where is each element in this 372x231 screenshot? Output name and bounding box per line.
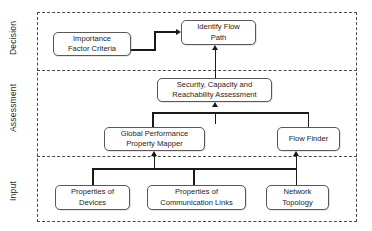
tier-label-input: Input — [0, 186, 35, 200]
node-identify-flow-path-line1: Identify Flow — [197, 22, 240, 31]
edge-input-devices-drop — [92, 168, 94, 185]
tier-label-assessment: Assessment — [0, 105, 35, 119]
node-network-topology-line2: Topology — [282, 198, 312, 207]
node-security-line1: Security, Capacity and — [177, 80, 252, 89]
tier-divider-assessment-input — [37, 156, 357, 157]
node-flow-finder-label: Flow Finder — [289, 134, 329, 143]
node-properties-of-devices-line1: Properties of — [71, 187, 114, 196]
node-network-topology[interactable]: Network Topology — [266, 185, 329, 210]
node-importance-factor-criteria-line2: Factor Criteria — [68, 44, 116, 53]
node-importance-factor-criteria[interactable]: Importance Factor Criteria — [53, 32, 131, 56]
edge-merge-assessment-stem — [215, 112, 217, 124]
node-properties-of-communication-links[interactable]: Properties of Communication Links — [147, 185, 246, 210]
tier-label-assessment-text: Assessment — [8, 88, 18, 132]
edge-security-to-identify-arrowhead — [212, 45, 218, 50]
edge-importance-to-identify-seg2 — [154, 31, 156, 50]
edge-merge-assessment-bar — [152, 112, 309, 114]
node-properties-of-communication-links-line2: Communication Links — [160, 198, 233, 207]
node-network-topology-line1: Network — [284, 187, 312, 196]
edge-importance-to-identify-seg3 — [154, 31, 176, 33]
node-global-performance-line2: Property Mapper — [126, 139, 183, 148]
node-global-performance-line1: Global Performance — [121, 129, 189, 138]
edge-merge-assessment-arrowhead — [212, 102, 218, 107]
edge-security-to-identify-line — [215, 50, 217, 78]
node-identify-flow-path-line2: Path — [211, 33, 227, 42]
node-global-performance-property-mapper[interactable]: Global Performance Property Mapper — [104, 127, 205, 151]
edge-topology-to-flowfinder-arrowhead — [293, 151, 299, 156]
tier-divider-decision-assessment — [37, 70, 357, 71]
tier-label-input-text: Input — [8, 169, 18, 213]
edge-input-commlinks-drop — [193, 168, 195, 185]
node-flow-finder[interactable]: Flow Finder — [277, 127, 340, 151]
edge-inputs-to-gppm-arrowhead — [151, 151, 157, 156]
node-properties-of-communication-links-line1: Properties of — [175, 187, 218, 196]
node-properties-of-devices[interactable]: Properties of Devices — [55, 185, 130, 210]
diagram-canvas: Decision Assessment Input Importance Fac… — [0, 0, 372, 231]
edge-merge-assessment-left-drop — [152, 112, 154, 128]
node-importance-factor-criteria-line1: Importance — [73, 34, 111, 43]
node-properties-of-devices-line2: Devices — [79, 198, 106, 207]
edge-importance-to-identify-seg1 — [131, 49, 156, 51]
edge-topology-to-flowfinder-line — [296, 156, 298, 185]
edge-merge-assessment-right-drop — [308, 112, 310, 128]
tier-label-decision-text: Decision — [8, 16, 18, 60]
edge-importance-to-identify-arrowhead — [176, 29, 181, 35]
node-identify-flow-path[interactable]: Identify Flow Path — [181, 20, 256, 45]
tier-label-decision: Decision — [0, 33, 35, 47]
node-security-capacity-reachability-assessment[interactable]: Security, Capacity and Reachability Asse… — [157, 78, 272, 102]
node-security-line2: Reachability Assessment — [172, 90, 256, 99]
